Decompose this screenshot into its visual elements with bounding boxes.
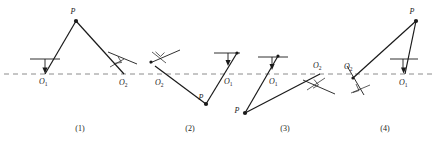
panel-2-mirror-o1-vertex-dot	[235, 51, 238, 54]
panel-4: P O2 O1 (4)	[344, 7, 418, 133]
panel-4-mirror-o2-tick	[351, 85, 370, 93]
panel-4-label-o2-subscript: 2	[350, 66, 353, 72]
panel-1: P O1 O2 (1)	[30, 7, 137, 133]
panel-2-caption: (2)	[185, 124, 195, 133]
panel-4-label-p: P	[409, 7, 415, 16]
panel-3-label-o2: O2	[313, 61, 322, 71]
panel-2-mirror-o2-surface	[150, 50, 180, 63]
ray-diagram-figure: P O1 O2 (1)	[0, 0, 438, 144]
panel-1-label-o2-subscript: 2	[125, 82, 128, 88]
panel-3-label-p: P	[234, 106, 240, 115]
panel-1-incident-ray	[45, 21, 76, 74]
panel-1-label-o1-subscript: 1	[45, 81, 48, 87]
panel-2-mirror-o2-vertex-dot	[149, 60, 152, 63]
panel-2-label-o1: O1	[224, 77, 233, 87]
panel-3-caption: (3)	[280, 124, 290, 133]
panel-1-reflected-ray	[76, 21, 124, 74]
panel-2-label-p: P	[198, 93, 204, 102]
panel-3-label-o2-subscript: 2	[319, 65, 322, 71]
panel-2-reflected-ray	[206, 53, 237, 104]
panel-2-label-o1-subscript: 1	[230, 81, 233, 87]
panel-4-point-p-dot	[414, 19, 418, 23]
panel-1-mirror-o2-surface	[108, 52, 137, 64]
panel-2-label-o2-subscript: 2	[161, 82, 164, 88]
panel-3-label-o1-subscript: 1	[275, 81, 278, 87]
panel-1-label-o1: O1	[39, 77, 48, 87]
panel-1-point-p-dot	[74, 19, 78, 23]
panel-2: P O2 O1 (2)	[149, 50, 240, 133]
panel-1-caption: (1)	[75, 124, 85, 133]
panel-3: P O1 O2 (3)	[234, 54, 335, 133]
panel-2-label-o2: O2	[155, 78, 164, 88]
panel-4-caption: (4)	[380, 124, 390, 133]
panel-2-point-p-dot	[204, 102, 208, 106]
panel-4-label-o2: O2	[344, 62, 353, 72]
panel-4-label-o1: O1	[399, 78, 408, 88]
panel-4-label-o1-subscript: 1	[405, 82, 408, 88]
panel-3-label-o1: O1	[269, 77, 278, 87]
panel-3-point-p-dot	[243, 111, 247, 115]
figure-canvas: P O1 O2 (1)	[0, 0, 438, 144]
panel-1-label-o2: O2	[119, 78, 128, 88]
panel-1-label-p: P	[70, 7, 76, 16]
